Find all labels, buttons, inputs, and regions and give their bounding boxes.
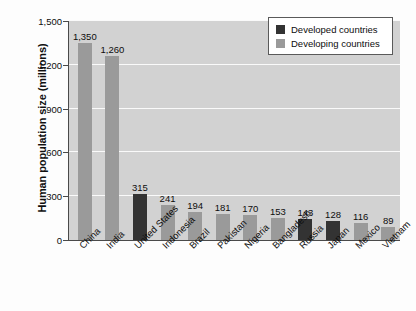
y-axis-title: Human population size (millions) [36,8,48,248]
bar-china[interactable] [78,43,92,240]
y-tick-label: 600 [18,147,62,158]
bar-value-label: 241 [160,193,176,204]
y-tick-label: 0 [18,235,62,246]
bar-value-label: 153 [270,206,286,217]
y-tick-label: 1,200 [18,59,62,70]
bar-value-label: 116 [353,211,368,222]
bar-value-label: 315 [132,182,148,193]
bar-india[interactable] [105,56,119,240]
y-tick-label: 1,500 [18,16,62,27]
bar-value-label: 170 [242,203,258,214]
legend-swatch-developed [276,25,285,34]
legend-item-developed[interactable]: Developed countries [276,22,386,36]
legend-label: Developed countries [291,24,378,35]
y-tick-label: 900 [18,103,62,114]
legend: Developed countriesDeveloping countries [268,17,393,55]
bar-value-label: 1,350 [73,31,97,42]
y-tick-label: 300 [18,191,62,202]
bar-value-label: 181 [215,202,231,213]
bar-value-label: 89 [383,215,394,226]
bar-value-label: 194 [187,200,203,211]
legend-item-developing[interactable]: Developing countries [276,36,386,50]
x-axis-labels: ChinaIndiaUnited StatesIndonesiaBrazilPa… [69,243,400,311]
legend-swatch-developing [276,39,285,48]
bar-value-label: 128 [325,209,341,220]
bar-value-label: 1,260 [100,44,124,55]
legend-label: Developing countries [291,38,380,49]
chart-screenshot: Human population size (millions) 0300600… [0,0,416,311]
